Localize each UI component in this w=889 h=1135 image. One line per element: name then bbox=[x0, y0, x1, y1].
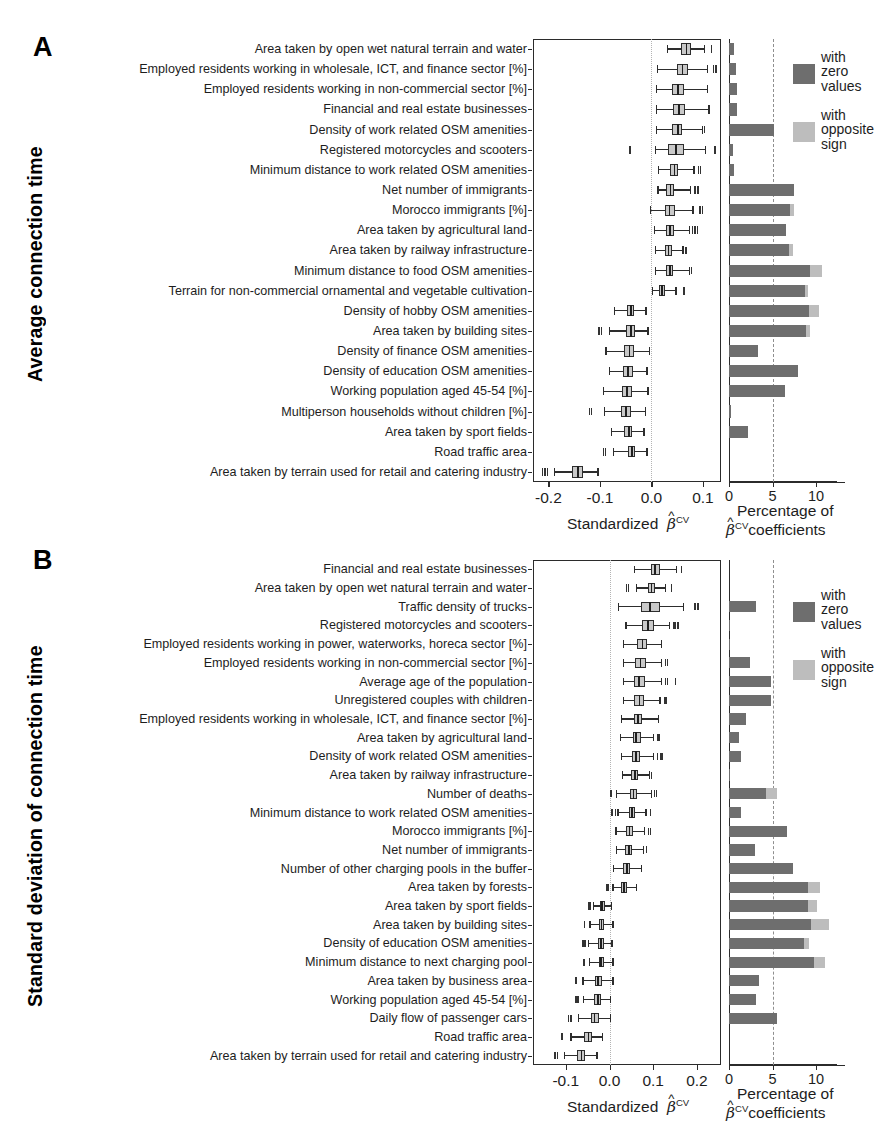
boxplot-whisker-high bbox=[654, 625, 669, 626]
boxplot-median bbox=[597, 994, 599, 1004]
x-tick-label: -0.1 bbox=[587, 489, 614, 507]
x-tick bbox=[548, 482, 549, 487]
category-label: Morocco immigrants [%] bbox=[392, 825, 527, 838]
boxplot-whisker-cap-low bbox=[615, 827, 616, 835]
boxplot-whisker-low bbox=[589, 962, 599, 963]
boxplot-whisker-low bbox=[667, 48, 681, 49]
boxplot-whisker-cap-low bbox=[657, 186, 658, 194]
boxplot-outlier bbox=[697, 226, 698, 234]
category-label: Density of work related OSM amenities bbox=[309, 123, 527, 136]
boxplot-whisker-cap-high bbox=[645, 407, 646, 415]
boxplot-median bbox=[597, 976, 599, 986]
boxplot-median bbox=[630, 325, 632, 336]
bar-segment-zero-values bbox=[729, 826, 787, 837]
bar-segment-zero-values bbox=[729, 732, 739, 743]
legend-item: withoppositesign bbox=[793, 646, 874, 689]
category-tick bbox=[528, 1018, 532, 1019]
legend-swatch bbox=[793, 64, 815, 84]
boxplot-whisker-low bbox=[603, 391, 622, 392]
boxplot-whisker-cap-high bbox=[641, 865, 642, 873]
boxplot-whisker-low bbox=[656, 129, 672, 130]
bar-segment-opposite-sign bbox=[811, 919, 829, 930]
category-label: Area taken by agricultural land bbox=[357, 224, 527, 237]
boxplot-whisker-high bbox=[637, 793, 650, 794]
bar-segment-zero-values bbox=[729, 900, 808, 911]
boxplot-outlier bbox=[646, 846, 647, 853]
bar-x-tick bbox=[816, 1065, 817, 1070]
boxplot-median bbox=[642, 639, 644, 649]
category-tick bbox=[528, 150, 532, 151]
boxplot-whisker-cap-low bbox=[589, 921, 590, 929]
boxplot-whisker-low bbox=[616, 849, 626, 850]
boxplot-outlier bbox=[544, 468, 545, 476]
bar-segment-zero-values bbox=[729, 975, 759, 986]
boxplot-median bbox=[628, 426, 630, 437]
boxplot-median bbox=[654, 564, 656, 574]
boxplot-median bbox=[600, 938, 602, 948]
category-tick bbox=[528, 794, 532, 795]
category-label: Area taken by forests bbox=[408, 881, 527, 894]
boxplot-median bbox=[637, 714, 639, 724]
panel-b-y-axis-title: Standard deviation of connection time bbox=[24, 566, 47, 1086]
boxplot-whisker-low bbox=[618, 606, 641, 607]
boxplot-whisker-high bbox=[633, 371, 646, 372]
legend-item: withoppositesign bbox=[793, 108, 874, 151]
boxplot-median bbox=[674, 164, 676, 175]
boxplot-whisker-cap-low bbox=[578, 1014, 579, 1022]
boxplot-whisker-low bbox=[614, 310, 627, 311]
boxplot-whisker-high bbox=[632, 849, 642, 850]
category-label: Minimum distance to next charging pool bbox=[305, 956, 527, 969]
boxplot-whisker-cap-high bbox=[646, 367, 647, 375]
bar-segment-zero-values bbox=[729, 639, 730, 650]
boxplot-outlier bbox=[662, 753, 663, 760]
bar-x-tick bbox=[816, 482, 817, 487]
category-tick bbox=[528, 311, 532, 312]
category-tick bbox=[528, 850, 532, 851]
boxplot-outlier bbox=[677, 622, 678, 629]
boxplot-whisker-cap-low bbox=[593, 902, 594, 910]
boxplot-whisker-cap-high bbox=[643, 846, 644, 854]
legend-item: withzerovalues bbox=[793, 50, 861, 93]
boxplot-whisker-cap-high bbox=[636, 884, 637, 892]
boxplot-outlier bbox=[629, 146, 630, 154]
boxplot-whisker-cap-low bbox=[609, 327, 610, 335]
boxplot-median bbox=[647, 620, 649, 630]
boxplot-median bbox=[638, 676, 640, 686]
boxplot-median bbox=[682, 64, 684, 75]
boxplot-whisker-low bbox=[582, 980, 594, 981]
bar-segment-opposite-sign bbox=[814, 957, 824, 968]
boxplot-whisker-cap-high bbox=[643, 428, 644, 436]
boxplot-outlier bbox=[575, 977, 576, 984]
category-label: Area taken by business area bbox=[367, 975, 527, 988]
boxplot-whisker-cap-high bbox=[646, 448, 647, 456]
boxplot-outlier bbox=[607, 884, 608, 891]
boxplot-outlier bbox=[650, 828, 651, 835]
boxplot-outlier bbox=[697, 186, 698, 194]
boxplot-outlier bbox=[694, 186, 695, 194]
category-tick bbox=[528, 1056, 532, 1057]
boxplot-whisker-cap-low bbox=[564, 1052, 565, 1060]
category-tick bbox=[528, 109, 532, 110]
x-tick-label: 0.1 bbox=[692, 489, 714, 507]
boxplot-whisker-low bbox=[621, 718, 634, 719]
x-tick bbox=[697, 1065, 698, 1070]
category-tick bbox=[528, 452, 532, 453]
boxplot-whisker-high bbox=[646, 662, 661, 663]
category-tick bbox=[528, 981, 532, 982]
boxplot-outlier bbox=[605, 448, 606, 456]
bar-segment-opposite-sign bbox=[806, 325, 810, 337]
boxplot-axis-caption: Standardized β^CV bbox=[567, 1097, 689, 1116]
category-label: Area taken by open wet natural terrain a… bbox=[255, 582, 527, 595]
legend-label: withoppositesign bbox=[821, 646, 874, 689]
category-tick bbox=[528, 869, 532, 870]
boxplot-whisker-cap-low bbox=[655, 267, 656, 275]
bar-segment-zero-values bbox=[729, 204, 790, 216]
boxplot-outlier bbox=[571, 1015, 572, 1022]
boxplot-whisker-cap-high bbox=[611, 940, 612, 948]
category-tick bbox=[528, 89, 532, 90]
category-label: Road traffic area bbox=[434, 445, 527, 458]
boxplot-whisker-cap-low bbox=[554, 468, 555, 476]
legend-item: withzerovalues bbox=[793, 588, 861, 631]
boxplot-whisker-low bbox=[554, 471, 572, 472]
boxplot-whisker-cap-high bbox=[647, 387, 648, 395]
